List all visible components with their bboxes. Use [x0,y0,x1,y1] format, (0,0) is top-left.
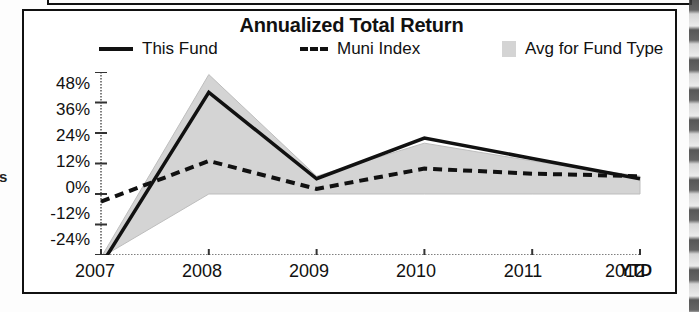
screenshot-stage: s Annualized Total Return This Fund Muni… [0,0,699,312]
chart-panel: Annualized Total Return This Fund Muni I… [22,9,677,294]
y-tick-label: 12% [26,153,90,170]
legend-label-this-fund: This Fund [142,39,218,59]
solid-line-swatch-icon [99,47,133,51]
x-axis-ytd-label: YTD [620,262,652,280]
x-tick-label: 2010 [381,261,451,282]
dashed-line-swatch-icon [300,47,328,51]
panel-divider-above [47,0,692,5]
legend-label-muni-index: Muni Index [337,39,420,59]
cut-off-text-fragment: s [0,168,7,185]
y-tick-label: 0% [26,179,90,196]
x-axis-tick-labels: 2007 2008 2009 2010 2011 2012 YTD [24,261,679,289]
chart-plot-area [93,72,648,255]
legend-item-this-fund: This Fund [99,39,218,59]
chart-title: Annualized Total Return [24,14,679,37]
x-tick-label: 2011 [488,261,558,282]
y-tick-label: 24% [26,127,90,144]
legend-item-avg-fund-type: Avg for Fund Type [502,39,663,59]
chart-svg [93,72,648,255]
y-axis-tick-labels: 48% 36% 24% 12% 0% -12% -24% [24,63,90,263]
x-tick-label: 2009 [274,261,344,282]
legend-item-muni-index: Muni Index [300,39,420,59]
y-tick-label: -12% [26,205,90,222]
scan-edge-artifact [689,0,699,312]
y-tick-label: 36% [26,101,90,118]
x-tick-label: 2007 [60,261,130,282]
legend-label-avg-fund-type: Avg for Fund Type [525,39,663,59]
y-tick-label: -24% [26,231,90,248]
x-tick-label: 2008 [167,261,237,282]
shaded-area-swatch-icon [502,41,516,57]
y-tick-label: 48% [26,75,90,92]
chart-legend: This Fund Muni Index Avg for Fund Type [24,39,679,63]
